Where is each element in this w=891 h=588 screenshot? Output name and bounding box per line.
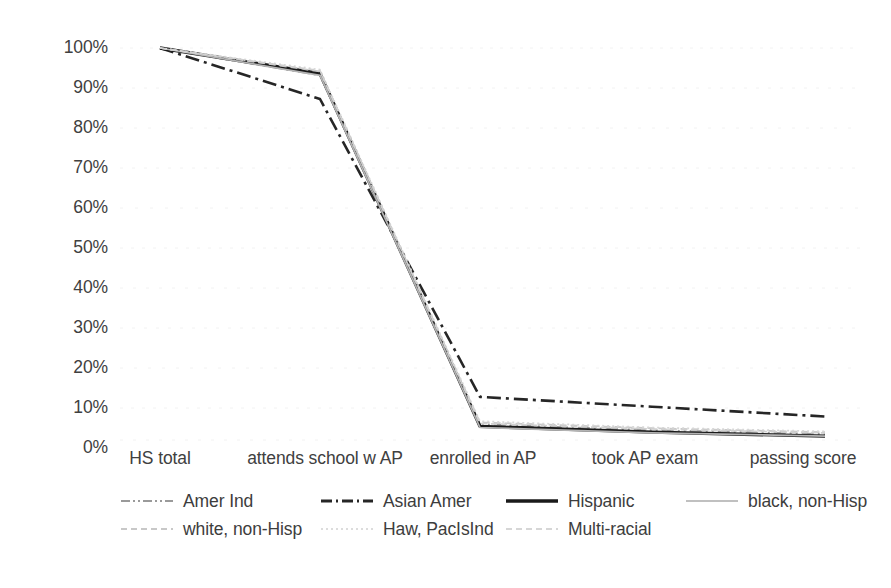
line-sample-icon <box>120 494 174 508</box>
legend-item-amer-ind: Amer Ind <box>120 486 253 516</box>
legend-label: Amer Ind <box>183 491 253 511</box>
line-sample-icon <box>685 494 739 508</box>
x-tick-label: HS total <box>100 448 220 468</box>
legend-item-black-non-hisp: black, non-Hisp <box>685 486 867 516</box>
plot-area: 100% 90% 80% 70% 60% 50% 40% 30% 20% 10%… <box>0 0 891 470</box>
line-sample-icon <box>505 522 559 536</box>
legend-label: Hispanic <box>568 491 634 511</box>
legend-item-hispanic: Hispanic <box>505 486 634 516</box>
legend-item-multi-racial: Multi-racial <box>505 514 651 544</box>
line-sample-icon <box>505 494 559 508</box>
legend-label: Haw, PacIsInd <box>383 519 494 539</box>
legend-row: white, non-Hisp Haw, PacIsInd Multi-raci… <box>0 514 891 544</box>
legend-item-asian-amer: Asian Amer <box>320 486 471 516</box>
x-tick-label: enrolled in AP <box>408 448 558 468</box>
legend-item-haw-pacisind: Haw, PacIsInd <box>320 514 494 544</box>
series-line <box>160 48 825 417</box>
legend-label: black, non-Hisp <box>748 491 867 511</box>
series-group <box>160 48 825 436</box>
x-tick-label: took AP exam <box>570 448 720 468</box>
legend-label: Asian Amer <box>383 491 471 511</box>
x-tick-label: attends school w AP <box>230 448 420 468</box>
series-line <box>160 48 825 436</box>
x-tick-label: passing score <box>728 448 878 468</box>
series-line <box>160 48 825 434</box>
line-sample-icon <box>320 522 374 536</box>
legend-item-white-non-hisp: white, non-Hisp <box>120 514 302 544</box>
gridlines <box>120 48 860 440</box>
series-line <box>160 48 825 436</box>
legend-row: Amer Ind Asian Amer Hispanic black, non-… <box>0 486 891 516</box>
legend-label: Multi-racial <box>568 519 651 539</box>
plot-lines <box>0 0 891 470</box>
legend-label: white, non-Hisp <box>183 519 302 539</box>
series-line <box>160 48 825 433</box>
chart-legend: Amer Ind Asian Amer Hispanic black, non-… <box>0 486 891 550</box>
series-line <box>160 48 825 432</box>
line-sample-icon <box>120 522 174 536</box>
series-line <box>160 48 825 431</box>
x-axis: HS total attends school w AP enrolled in… <box>0 448 891 476</box>
line-sample-icon <box>320 494 374 508</box>
ap-pipeline-line-chart: 100% 90% 80% 70% 60% 50% 40% 30% 20% 10%… <box>0 0 891 588</box>
